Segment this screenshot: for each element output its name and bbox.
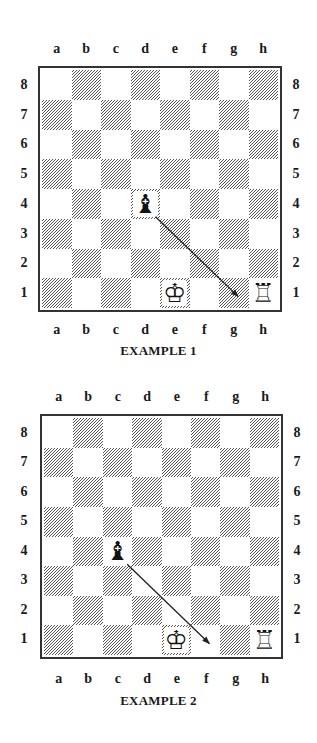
square-f8: [191, 418, 220, 448]
square-b5: [73, 507, 102, 537]
square-c3: [101, 219, 131, 249]
square-b4: [73, 537, 102, 567]
square-e1: ♔: [162, 625, 191, 655]
square-a6: [44, 477, 73, 507]
square-f6: [191, 477, 220, 507]
diagram-caption: EXAMPLE 2: [0, 693, 317, 709]
square-d4: [132, 537, 161, 567]
square-g5: [219, 159, 249, 189]
file-labels-bottom: a b c d e f g h: [44, 671, 280, 687]
rank-label: 1: [14, 625, 34, 655]
black-bishop-icon: ♝: [133, 191, 158, 217]
rank-label: 7: [287, 448, 307, 478]
square-g2: [219, 249, 249, 279]
square-b3: [73, 566, 102, 596]
chessboard-frame: ♝♔♖: [40, 414, 283, 659]
square-f7: [191, 448, 220, 478]
rank-label: 6: [286, 130, 306, 160]
rank-labels-right: 8 7 6 5 4 3 2 1: [286, 70, 306, 308]
square-g1: [220, 625, 249, 655]
white-rook-icon: ♖: [253, 627, 276, 653]
file-label: h: [249, 41, 279, 57]
square-e1: ♔: [160, 278, 190, 308]
square-d6: [132, 477, 161, 507]
chessboard: ♝♔♖: [44, 418, 279, 655]
chessboard-frame: ♝♔♖: [38, 66, 282, 312]
square-h7: [249, 100, 279, 130]
square-a8: [42, 70, 72, 100]
square-b4: [72, 189, 102, 219]
rank-label: 1: [286, 278, 306, 308]
square-a8: [44, 418, 73, 448]
square-a4: [44, 537, 73, 567]
square-g6: [219, 130, 249, 160]
square-d8: [131, 70, 161, 100]
rank-label: 5: [286, 159, 306, 189]
square-f4: [190, 189, 220, 219]
rank-label: 8: [14, 418, 34, 448]
square-e2: [160, 249, 190, 279]
rank-label: 2: [287, 595, 307, 625]
square-a3: [42, 219, 72, 249]
square-c8: [103, 418, 132, 448]
square-f5: [191, 507, 220, 537]
rank-label: 2: [14, 249, 34, 279]
square-b5: [72, 159, 102, 189]
file-label: c: [103, 389, 133, 405]
file-label: d: [133, 671, 163, 687]
file-label: d: [131, 41, 161, 57]
square-d4: ♝: [131, 189, 161, 219]
square-c1: [101, 278, 131, 308]
square-c4: [101, 189, 131, 219]
file-label: h: [251, 389, 281, 405]
square-c2: [101, 249, 131, 279]
square-g4: [220, 537, 249, 567]
rank-labels-right: 8 7 6 5 4 3 2 1: [287, 418, 307, 654]
square-f7: [190, 100, 220, 130]
file-labels-top: a b c d e f g h: [44, 389, 280, 405]
square-e8: [162, 418, 191, 448]
square-g7: [219, 100, 249, 130]
square-f6: [190, 130, 220, 160]
square-c5: [103, 507, 132, 537]
square-c2: [103, 596, 132, 626]
file-label: e: [160, 41, 190, 57]
square-e5: [162, 507, 191, 537]
square-f3: [191, 566, 220, 596]
file-label: h: [251, 671, 281, 687]
file-label: a: [44, 671, 74, 687]
file-label: f: [192, 389, 222, 405]
square-b8: [73, 418, 102, 448]
square-e6: [160, 130, 190, 160]
square-e6: [162, 477, 191, 507]
square-h1: ♖: [249, 278, 279, 308]
square-a7: [44, 448, 73, 478]
rank-label: 2: [286, 249, 306, 279]
file-label: a: [42, 322, 72, 338]
square-h2: [249, 249, 279, 279]
square-b6: [73, 477, 102, 507]
square-f8: [190, 70, 220, 100]
file-labels-bottom: a b c d e f g h: [42, 322, 278, 338]
square-h6: [250, 477, 279, 507]
rank-label: 5: [287, 507, 307, 537]
square-c6: [101, 130, 131, 160]
rank-labels-left: 8 7 6 5 4 3 2 1: [14, 70, 34, 308]
diagram-caption: EXAMPLE 1: [0, 343, 317, 359]
square-b3: [72, 219, 102, 249]
file-label: g: [221, 389, 251, 405]
square-e4: [160, 189, 190, 219]
file-label: b: [72, 322, 102, 338]
square-a2: [44, 596, 73, 626]
rank-label: 3: [286, 219, 306, 249]
rank-label: 3: [287, 566, 307, 596]
rank-label: 4: [286, 189, 306, 219]
square-g8: [220, 418, 249, 448]
square-e7: [160, 100, 190, 130]
square-b8: [72, 70, 102, 100]
square-d3: [132, 566, 161, 596]
square-d1: [132, 625, 161, 655]
square-g8: [219, 70, 249, 100]
rank-label: 4: [14, 536, 34, 566]
square-c6: [103, 477, 132, 507]
